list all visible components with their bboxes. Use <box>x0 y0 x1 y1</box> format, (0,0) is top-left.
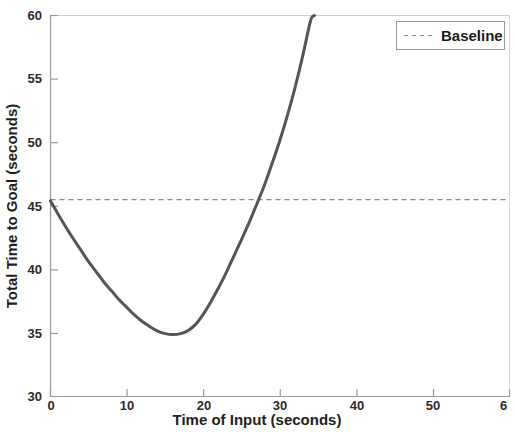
x-axis-title: Time of Input (seconds) <box>0 412 514 427</box>
xtick-label-60: 6 <box>500 399 514 412</box>
figure: 60 55 50 45 40 35 30 0 10 20 30 40 50 6 … <box>0 0 514 432</box>
xtick-label-10: 10 <box>112 399 142 412</box>
axis-frame <box>50 15 510 397</box>
chart-legend: Baseline <box>396 21 505 50</box>
x-tick-marks <box>51 389 510 396</box>
xtick-label-0: 0 <box>36 399 66 412</box>
xtick-label-50: 50 <box>418 399 448 412</box>
legend-item-label-baseline: Baseline <box>441 28 503 43</box>
chart-canvas <box>0 0 514 432</box>
xtick-label-40: 40 <box>342 399 372 412</box>
y-axis-title: Total Time to Goal (seconds) <box>4 15 22 397</box>
total-time-series-line <box>51 16 315 335</box>
legend-dashed-line-icon <box>404 35 434 36</box>
